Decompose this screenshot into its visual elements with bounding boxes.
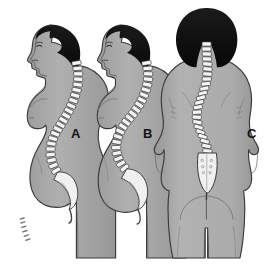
figure-label-c: C xyxy=(247,127,256,140)
figure-label-a: A xyxy=(71,127,80,140)
illustration-canvas: A B C Side view of female figure showing… xyxy=(0,0,276,266)
figure-label-b: B xyxy=(143,127,152,140)
anatomical-illustration-svg xyxy=(0,0,276,266)
